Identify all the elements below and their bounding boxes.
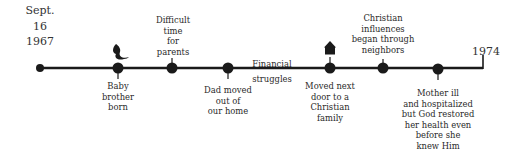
event-label-baby-brother: Baby brother born [102, 81, 134, 113]
event-label-dad-moved: Dad moved out of our home [204, 85, 252, 117]
event-label-moved-next-door: Moved next door to a Christian family [305, 81, 355, 123]
event-label-financial-struggles: Financial struggles [252, 57, 292, 87]
event-label-mother-ill: Mother ill and hospitalized but God rest… [402, 88, 475, 152]
start-dot [36, 64, 44, 72]
house-icon [324, 41, 336, 55]
end-date-label: 1974 [472, 44, 500, 60]
start-date-label: Sept. 16 1967 [25, 3, 54, 50]
baby-icon [113, 44, 129, 60]
event-label-difficult-time: Difficult time for parents [156, 15, 190, 57]
event-label-christian-influences: Christian influences began through neigh… [352, 13, 415, 55]
